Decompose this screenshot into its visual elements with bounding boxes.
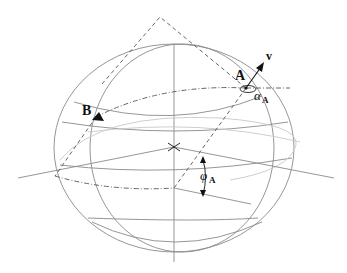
label-a: A (235, 68, 246, 83)
label-alpha-sub: A (262, 95, 269, 105)
latitude-arrow-top (200, 156, 206, 163)
latitude-line-light (88, 127, 300, 142)
sphere-diagram: B A v α A φ A (0, 0, 347, 273)
latitude-line-5 (92, 222, 262, 242)
equatorial-line-right (174, 147, 334, 178)
point-b-marker (92, 112, 104, 121)
label-b: B (82, 103, 91, 118)
label-v: v (266, 49, 272, 63)
radius-to-a-projection (174, 188, 251, 204)
dashed-line-a-center (174, 88, 246, 188)
velocity-arrowhead (256, 62, 264, 72)
label-alpha: α (254, 88, 262, 103)
latitude-line-3 (60, 158, 292, 170)
label-phi: φ (200, 168, 207, 183)
label-phi-sub: A (209, 175, 216, 185)
meridian-ellipse (90, 44, 274, 252)
latitude-line-4 (88, 218, 258, 220)
equatorial-line-left (18, 147, 174, 178)
dashed-equator-arc (55, 176, 174, 189)
latitude-line-1 (74, 96, 262, 116)
